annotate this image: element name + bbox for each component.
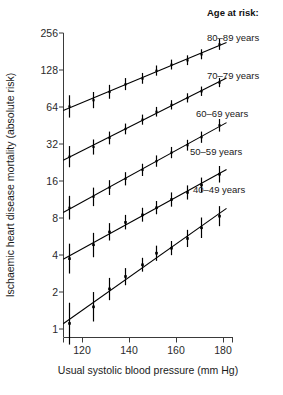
data-point-marker	[170, 64, 172, 66]
data-point-marker	[200, 136, 202, 138]
series-60-69-years	[63, 119, 226, 219]
x-tick-marks	[64, 338, 233, 343]
data-point-marker	[68, 207, 70, 209]
y-tick-label-2: 2	[52, 286, 58, 298]
y-tick-label-256: 256	[40, 27, 58, 39]
data-point-marker	[155, 160, 157, 162]
legend-item-40-49: 40–49 years	[193, 184, 246, 195]
data-point-marker	[186, 59, 188, 61]
data-point-marker	[200, 53, 202, 55]
y-tick-marks	[59, 33, 64, 329]
data-point-marker	[141, 263, 144, 266]
data-point-marker	[124, 83, 126, 85]
chart-figure: 256 128 64 32 16 8 4 2 1 120 140 160 180…	[0, 0, 283, 395]
x-tick-label-160: 160	[167, 344, 185, 356]
data-point-marker	[170, 104, 172, 106]
legend-item-80-89: 80–89 years	[207, 32, 260, 43]
data-point-marker	[218, 173, 221, 176]
data-point-marker	[124, 275, 127, 278]
data-point-marker	[200, 226, 203, 229]
data-point-marker	[218, 82, 220, 84]
data-point-marker	[155, 206, 158, 209]
data-point-marker	[92, 306, 95, 309]
y-tick-label-1: 1	[52, 323, 58, 335]
legend-item-60-69: 60–69 years	[196, 108, 249, 119]
x-axis-title: Usual systolic blood pressure (mm Hg)	[58, 364, 238, 376]
data-point-marker	[155, 70, 157, 72]
data-point-marker	[68, 156, 70, 158]
x-tick-label-180: 180	[214, 344, 232, 356]
data-point-marker	[108, 137, 110, 139]
data-point-marker	[141, 214, 144, 217]
series-80-89-years	[63, 39, 226, 118]
data-point-marker	[92, 99, 94, 101]
data-point-marker	[124, 128, 126, 130]
data-point-marker	[218, 124, 220, 126]
data-point-marker	[124, 178, 126, 180]
x-tick-label-140: 140	[120, 344, 138, 356]
legend-item-70-79: 70–79 years	[207, 70, 260, 81]
data-point-marker	[155, 111, 157, 113]
data-point-marker	[68, 105, 70, 107]
legend-title: Age at risk:	[207, 7, 259, 18]
data-point-marker	[170, 198, 173, 201]
data-point-marker	[108, 91, 110, 93]
data-point-marker	[186, 97, 188, 99]
y-axis-title: Ischaemic heart disease mortality (absol…	[4, 73, 16, 298]
data-point-marker	[141, 77, 143, 79]
y-tick-labels: 256 128 64 32 16 8 4 2 1	[40, 27, 58, 335]
data-point-marker	[124, 221, 127, 224]
data-point-marker	[186, 144, 188, 146]
data-point-marker	[186, 191, 189, 194]
data-point-marker	[218, 215, 221, 218]
data-point-marker	[218, 43, 220, 45]
data-point-marker	[108, 187, 110, 189]
y-tick-label-4: 4	[52, 249, 58, 261]
data-point-marker	[92, 146, 94, 148]
y-tick-label-64: 64	[46, 101, 58, 113]
data-point-marker	[108, 288, 111, 291]
y-tick-label-128: 128	[40, 64, 58, 76]
data-point-marker	[155, 252, 158, 255]
legend-item-50-59: 50–59 years	[190, 146, 243, 157]
data-point-marker	[68, 257, 71, 260]
data-point-marker	[92, 196, 94, 198]
data-point-marker	[170, 151, 172, 153]
x-tick-labels: 120 140 160 180	[73, 344, 232, 356]
data-point-marker	[68, 322, 71, 325]
y-tick-label-8: 8	[52, 212, 58, 224]
chart-canvas: 256 128 64 32 16 8 4 2 1 120 140 160 180…	[0, 0, 283, 395]
data-point-marker	[141, 169, 143, 171]
data-point-marker	[108, 231, 111, 234]
series-40-49-years	[63, 206, 226, 344]
data-point-marker	[170, 247, 173, 250]
y-tick-label-32: 32	[46, 138, 58, 150]
data-point-marker	[186, 237, 189, 240]
x-tick-label-120: 120	[73, 344, 91, 356]
y-tick-label-16: 16	[46, 175, 58, 187]
data-point-marker	[92, 243, 95, 246]
data-point-marker	[141, 119, 143, 121]
data-point-marker	[200, 90, 202, 92]
